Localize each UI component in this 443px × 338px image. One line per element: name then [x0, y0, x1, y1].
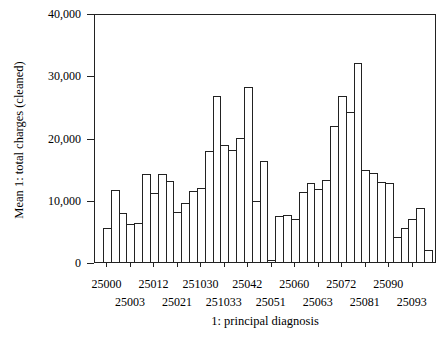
y-axis-title: Mean 1: total charges (cleaned) — [12, 61, 27, 218]
y-tick — [87, 263, 94, 264]
x-tick-label: 251033 — [206, 296, 242, 308]
x-tick — [271, 263, 272, 267]
x-tick — [247, 263, 248, 267]
x-tick-label: 25063 — [303, 296, 333, 308]
x-tick-label: 25093 — [397, 296, 427, 308]
y-tick — [87, 76, 94, 77]
y-tick-label: 20,000 — [48, 133, 81, 145]
plot-area: 5400116007800610063001420011100142001300… — [94, 14, 436, 263]
x-tick-label: 25000 — [91, 278, 121, 290]
x-tick — [388, 263, 389, 267]
y-tick-label: 10,000 — [48, 195, 81, 207]
x-tick — [177, 263, 178, 267]
x-tick — [294, 263, 295, 267]
x-tick — [412, 263, 413, 267]
x-tick — [341, 263, 342, 267]
x-tick-label: 25003 — [115, 296, 145, 308]
x-tick — [130, 263, 131, 267]
bar: 1900 — [424, 250, 433, 262]
bar-chart: Mean 1: total charges (cleaned) 010,0002… — [0, 0, 443, 338]
x-tick-label: 25021 — [162, 296, 192, 308]
y-tick — [87, 14, 94, 15]
bar: 16200 — [260, 161, 269, 262]
x-tick — [200, 263, 201, 267]
y-tick-label: 30,000 — [48, 70, 81, 82]
x-tick — [224, 263, 225, 267]
y-tick-label: 0 — [75, 257, 81, 269]
x-tick-label: 25081 — [350, 296, 380, 308]
x-tick-label: 25060 — [279, 278, 309, 290]
x-tick — [365, 263, 366, 267]
x-tick — [318, 263, 319, 267]
x-tick-label: 25051 — [256, 296, 286, 308]
y-tick-label: 40,000 — [48, 8, 81, 20]
x-tick — [153, 263, 154, 267]
x-tick-label: 25012 — [138, 278, 168, 290]
x-axis-title: 1: principal diagnosis — [211, 314, 319, 329]
y-tick — [87, 201, 94, 202]
x-tick-label: 25042 — [232, 278, 262, 290]
x-tick-label: 25090 — [373, 278, 403, 290]
x-tick — [106, 263, 107, 267]
x-tick-label: 251030 — [182, 278, 218, 290]
y-tick — [87, 139, 94, 140]
x-tick-label: 25072 — [326, 278, 356, 290]
